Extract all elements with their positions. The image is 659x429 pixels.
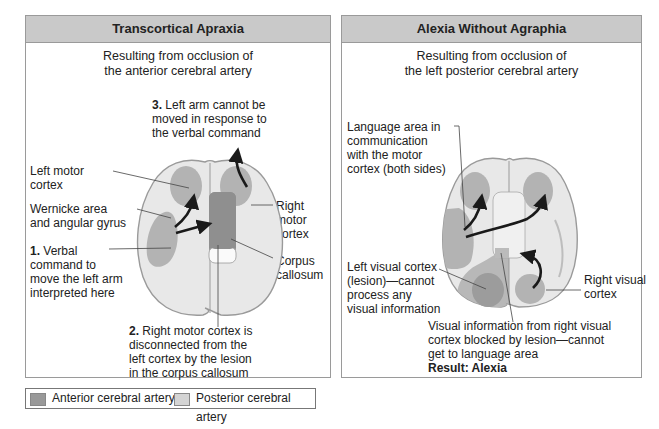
legend-label-posterior: Posterior cerebral artery bbox=[196, 389, 315, 427]
legend-label-anterior: Anterior cerebral artery bbox=[52, 389, 175, 408]
right-motor-cortex-region bbox=[523, 172, 553, 210]
left-motor-cortex-region bbox=[170, 166, 202, 206]
left-visual-cortex-region bbox=[472, 273, 504, 307]
panel-alexia-without-agraphia: Alexia Without Agraphia Resulting from o… bbox=[341, 15, 642, 378]
left-motor-cortex-region bbox=[460, 172, 490, 210]
brain-diagram-posterior bbox=[341, 15, 642, 378]
legend-swatch-posterior bbox=[174, 393, 190, 406]
brain-diagram-anterior bbox=[25, 15, 331, 378]
panel-transcortical-apraxia: Transcortical Apraxia Resulting from occ… bbox=[25, 15, 331, 378]
legend-swatch-anterior bbox=[30, 393, 46, 406]
legend: Anterior cerebral artery Posterior cereb… bbox=[25, 388, 316, 409]
